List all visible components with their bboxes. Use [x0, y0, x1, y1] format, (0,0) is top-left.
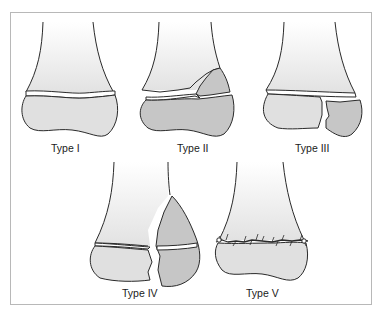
type-5-bone [215, 162, 308, 280]
label-type-1: Type I [51, 142, 80, 154]
label-type-5: Type V [246, 287, 279, 299]
label-type-3: Type III [295, 142, 329, 154]
type-4-bone [90, 162, 200, 286]
type-1-bone [22, 22, 118, 136]
type-2-bone [140, 22, 234, 136]
salter-harris-diagram [0, 0, 382, 314]
label-type-2: Type II [177, 142, 209, 154]
type-3-bone [263, 22, 362, 136]
label-type-4: Type IV [122, 287, 158, 299]
